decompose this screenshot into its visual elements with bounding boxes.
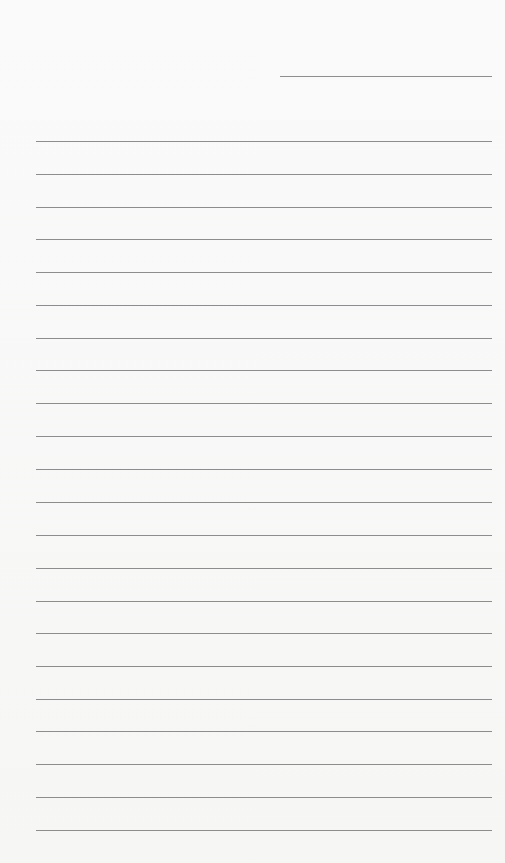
writing-line[interactable]: [36, 370, 492, 371]
writing-line[interactable]: [36, 207, 492, 208]
writing-line[interactable]: [36, 731, 492, 732]
writing-line[interactable]: [36, 338, 492, 339]
writing-line[interactable]: [36, 469, 492, 470]
writing-line[interactable]: [36, 830, 492, 831]
writing-line[interactable]: [36, 601, 492, 602]
writing-line[interactable]: [36, 535, 492, 536]
writing-line[interactable]: [36, 272, 492, 273]
writing-line[interactable]: [36, 568, 492, 569]
writing-line[interactable]: [36, 141, 492, 142]
header-line[interactable]: [280, 76, 492, 77]
writing-line[interactable]: [36, 502, 492, 503]
writing-line[interactable]: [36, 305, 492, 306]
writing-line[interactable]: [36, 699, 492, 700]
lined-paper-page: [0, 0, 505, 863]
writing-line[interactable]: [36, 797, 492, 798]
writing-line[interactable]: [36, 436, 492, 437]
writing-line[interactable]: [36, 633, 492, 634]
writing-line[interactable]: [36, 764, 492, 765]
writing-line[interactable]: [36, 239, 492, 240]
writing-line[interactable]: [36, 403, 492, 404]
writing-line[interactable]: [36, 666, 492, 667]
writing-line[interactable]: [36, 174, 492, 175]
